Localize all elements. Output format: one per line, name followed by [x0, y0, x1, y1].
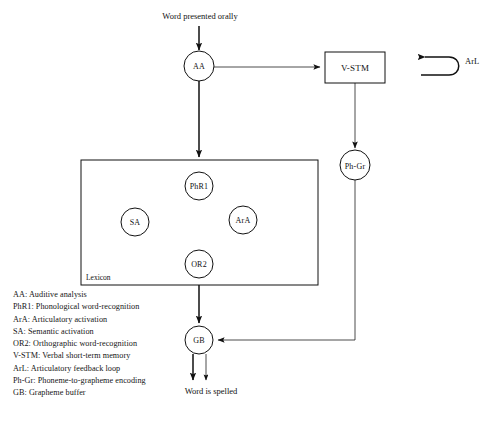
arl-label: ArL [465, 56, 479, 66]
node-vstm-label: V-STM [341, 63, 369, 73]
node-sa-label: SA [130, 218, 141, 227]
legend: AA: Auditive analysis PhR1: Phonological… [13, 289, 213, 400]
legend-item: ArL: Articulatory feedback loop [13, 363, 213, 375]
legend-item: PhR1: Phonological word-recognition [13, 301, 213, 313]
legend-item: SA: Semantic activation [13, 326, 213, 338]
legend-item: AA: Auditive analysis [13, 289, 213, 301]
node-or2-label: OR2 [191, 260, 207, 269]
input-title: Word presented orally [162, 11, 238, 21]
node-ara-label: ArA [236, 216, 251, 225]
arl-loop-glyph [421, 57, 459, 75]
legend-item: GB: Grapheme buffer [13, 387, 213, 399]
diagram-canvas: AA V-STM Ph-Gr PhR1 SA ArA OR2 GB Word p… [0, 0, 489, 430]
legend-item: ArA: Articulatory activation [13, 314, 213, 326]
node-phgr-label: Ph-Gr [345, 162, 366, 171]
node-aa-label: AA [193, 62, 205, 71]
node-phr1-label: PhR1 [190, 182, 209, 191]
lexicon-label: Lexicon [86, 273, 111, 282]
legend-item: V-STM: Verbal short-term memory [13, 350, 213, 362]
legend-item: OR2: Orthographic word-recognition [13, 338, 213, 350]
legend-item: Ph-Gr: Phoneme-to-grapheme encoding [13, 375, 213, 387]
